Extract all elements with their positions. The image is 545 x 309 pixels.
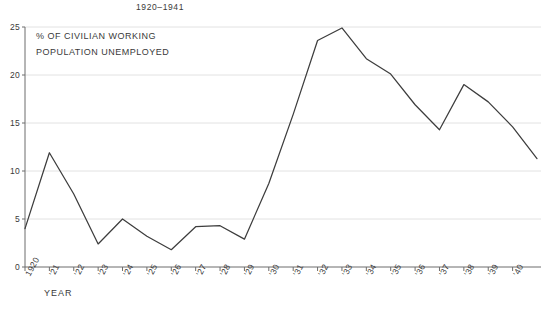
gridlines <box>25 27 541 219</box>
axes <box>25 27 541 267</box>
y-axis-tick-label: 15 <box>0 118 20 128</box>
y-axis-tick-label: 20 <box>0 70 20 80</box>
y-axis-tick-label: 0 <box>0 262 20 272</box>
chart-page: 1920–1941 % OF CIVILIAN WORKING POPULATI… <box>0 0 545 309</box>
data-series-line <box>25 28 537 250</box>
y-axis-tick-label: 25 <box>0 22 20 32</box>
y-axis-tick-label: 5 <box>0 214 20 224</box>
y-axis-tick-label: 10 <box>0 166 20 176</box>
x-axis-title: YEAR <box>44 288 73 298</box>
